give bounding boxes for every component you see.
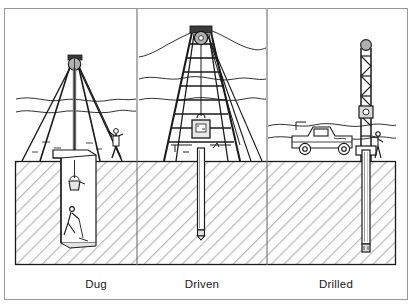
well-types-figure: Dug Driven Drilled: [0, 0, 412, 307]
crown-pulley-wheel: [194, 31, 207, 44]
panel-label-drilled: Drilled: [319, 278, 353, 290]
crown-pulley-wheel: [361, 40, 372, 51]
panel-label-dug: Dug: [85, 278, 107, 290]
drill-pipe-string: [362, 150, 370, 244]
illustration-canvas: Dug Driven Drilled: [0, 0, 412, 307]
travelling-block: [359, 106, 373, 118]
drill-bit: [362, 244, 370, 252]
panel-label-driven: Driven: [185, 278, 219, 290]
drive-pipe: [198, 148, 205, 230]
